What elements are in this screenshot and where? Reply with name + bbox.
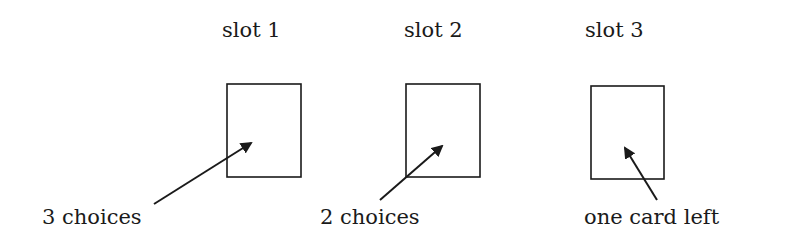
slot-title-1: slot 1 <box>222 20 281 41</box>
card-slot-box-2 <box>406 84 480 177</box>
card-slot-box-1 <box>227 84 301 177</box>
card-slot-box-3 <box>591 86 664 179</box>
slot-title-2: slot 2 <box>404 20 463 41</box>
slot-note-1: 3 choices <box>42 207 142 228</box>
arrow-icon <box>154 143 251 204</box>
slot-title-3: slot 3 <box>585 20 644 41</box>
arrow-icon <box>625 148 657 200</box>
slot-note-3: one card left <box>584 207 719 228</box>
slot-note-2: 2 choices <box>320 207 420 228</box>
arrow-icon <box>380 146 442 200</box>
